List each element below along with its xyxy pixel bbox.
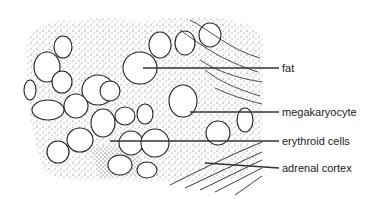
diagram-canvas: fat megakaryocyte erythroid cells adrena… <box>0 0 388 199</box>
label-erythroid-cells: erythroid cells <box>282 135 350 147</box>
label-fat: fat <box>282 62 294 74</box>
label-adrenal-cortex: adrenal cortex <box>282 162 352 174</box>
label-megakaryocyte: megakaryocyte <box>282 106 357 118</box>
